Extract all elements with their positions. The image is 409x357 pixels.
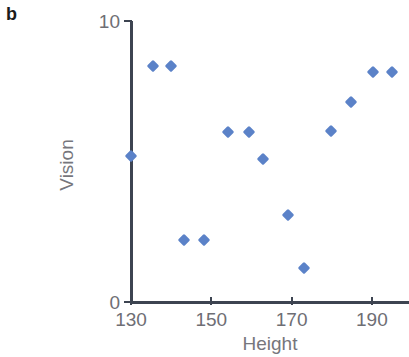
data-point (243, 126, 256, 139)
data-point (222, 126, 235, 139)
x-axis-tick (291, 297, 293, 305)
y-axis-tick (124, 20, 132, 22)
x-axis-tick-label: 130 (115, 310, 147, 329)
data-point (298, 262, 311, 275)
data-point (178, 234, 191, 247)
y-axis-tick-label: 0 (109, 293, 120, 312)
y-axis-tick (124, 301, 132, 303)
x-axis-tick (210, 297, 212, 305)
y-axis-title: Vision (57, 139, 76, 190)
plot-area: 130150170190 010 Height Vision (0, 0, 409, 357)
x-axis-tick-label: 150 (195, 310, 227, 329)
x-axis-tick-label: 190 (356, 310, 388, 329)
data-point (125, 150, 138, 163)
x-axis-title: Height (243, 334, 298, 353)
data-point (344, 96, 357, 109)
data-point (282, 209, 295, 222)
data-point (147, 60, 160, 73)
x-axis-tick-label: 170 (276, 310, 308, 329)
data-point (385, 65, 398, 78)
data-point (257, 152, 270, 165)
scatter-plot-figure: b 130150170190 010 Height Vision (0, 0, 409, 357)
data-point (325, 124, 338, 137)
data-point (198, 234, 211, 247)
x-axis-line (130, 301, 409, 304)
x-axis-tick (371, 297, 373, 305)
data-point (367, 65, 380, 78)
data-point (165, 60, 178, 73)
y-axis-tick-label: 10 (99, 12, 120, 31)
